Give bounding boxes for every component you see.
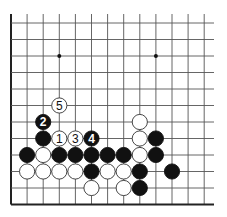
black-stone-icon xyxy=(132,164,147,179)
black-stone xyxy=(132,164,147,179)
black-stone-icon xyxy=(84,147,99,162)
white-stone-5: 5 xyxy=(52,98,67,113)
black-stone-icon xyxy=(100,147,115,162)
black-stone xyxy=(68,147,83,162)
white-stone xyxy=(132,147,147,162)
black-stone xyxy=(52,147,67,162)
black-stone xyxy=(132,180,147,195)
black-stone xyxy=(116,147,131,162)
star-point-icon xyxy=(154,54,158,58)
white-stone-icon xyxy=(132,131,147,146)
white-stone xyxy=(116,180,131,195)
black-stone-icon xyxy=(36,131,51,146)
move-number: 2 xyxy=(40,115,47,129)
white-stone-icon xyxy=(116,180,131,195)
black-stone xyxy=(148,147,163,162)
black-stone xyxy=(36,131,51,146)
black-stone-icon xyxy=(84,164,99,179)
black-stone-icon xyxy=(116,147,131,162)
white-stone xyxy=(20,164,35,179)
white-stone xyxy=(52,164,67,179)
white-stone-icon xyxy=(116,164,131,179)
white-stone-icon xyxy=(68,164,83,179)
black-stone-icon xyxy=(164,164,179,179)
black-stone xyxy=(20,147,35,162)
black-stone-4: 4 xyxy=(84,131,99,146)
black-stone-icon xyxy=(148,131,163,146)
white-stone-icon xyxy=(36,147,51,162)
white-stone-icon xyxy=(132,147,147,162)
black-stone-2: 2 xyxy=(36,114,51,129)
white-stone-icon xyxy=(36,164,51,179)
move-number: 3 xyxy=(72,132,79,146)
white-stone xyxy=(68,164,83,179)
black-stone-icon xyxy=(148,147,163,162)
black-stone-icon xyxy=(132,180,147,195)
move-number: 5 xyxy=(56,99,63,113)
white-stone xyxy=(132,131,147,146)
white-stone-1: 1 xyxy=(52,131,67,146)
move-number: 1 xyxy=(56,132,63,146)
black-stone xyxy=(100,147,115,162)
black-stone xyxy=(84,164,99,179)
black-stone xyxy=(164,164,179,179)
black-stone xyxy=(84,147,99,162)
white-stone xyxy=(116,164,131,179)
black-stone xyxy=(148,131,163,146)
white-stone xyxy=(84,180,99,195)
white-stone xyxy=(100,164,115,179)
black-stone-icon xyxy=(68,147,83,162)
white-stone-icon xyxy=(20,164,35,179)
move-number: 4 xyxy=(88,132,95,146)
white-stone-icon xyxy=(100,164,115,179)
white-stone-icon xyxy=(84,180,99,195)
white-stone xyxy=(132,114,147,129)
white-stone xyxy=(36,147,51,162)
black-stone-icon xyxy=(52,147,67,162)
white-stone xyxy=(36,164,51,179)
white-stone-3: 3 xyxy=(68,131,83,146)
white-stone-icon xyxy=(52,164,67,179)
black-stone-icon xyxy=(20,147,35,162)
star-point-icon xyxy=(57,54,61,58)
white-stone-icon xyxy=(132,114,147,129)
go-board: 52134 xyxy=(0,0,227,217)
